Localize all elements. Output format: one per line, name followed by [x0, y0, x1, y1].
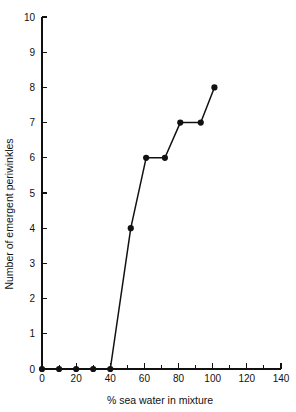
- x-tick-label: 100: [204, 373, 221, 384]
- data-point: [128, 225, 134, 231]
- x-tick-label: 0: [39, 373, 45, 384]
- y-tick-label: 5: [29, 188, 35, 199]
- x-tick-label: 120: [239, 373, 256, 384]
- x-tick-label: 140: [273, 373, 290, 384]
- x-tick-label: 40: [105, 373, 117, 384]
- data-point: [177, 120, 183, 126]
- chart-background: [0, 0, 296, 412]
- y-axis-title: Number of emergent periwinkles: [3, 138, 15, 289]
- line-chart: 012345678910 020406080100120140 % sea wa…: [0, 0, 296, 412]
- chart-figure: 012345678910 020406080100120140 % sea wa…: [0, 0, 296, 412]
- y-tick-label: 10: [24, 12, 36, 23]
- y-tick-label: 0: [29, 364, 35, 375]
- y-tick-label: 2: [29, 293, 35, 304]
- x-tick-label: 20: [71, 373, 83, 384]
- data-point: [143, 155, 149, 161]
- data-point: [39, 366, 45, 372]
- data-point: [73, 366, 79, 372]
- data-point: [90, 366, 96, 372]
- y-tick-label: 7: [29, 117, 35, 128]
- data-point: [107, 366, 113, 372]
- y-tick-label: 9: [29, 47, 35, 58]
- data-point: [162, 155, 168, 161]
- x-tick-label: 80: [173, 373, 185, 384]
- data-point: [211, 84, 217, 90]
- y-tick-label: 3: [29, 258, 35, 269]
- y-tick-label: 8: [29, 82, 35, 93]
- x-axis-title: % sea water in mixture: [107, 394, 213, 406]
- data-point: [198, 120, 204, 126]
- y-tick-label: 1: [29, 328, 35, 339]
- y-tick-label: 6: [29, 152, 35, 163]
- y-tick-label: 4: [29, 223, 35, 234]
- x-tick-label: 60: [139, 373, 151, 384]
- data-point: [56, 366, 62, 372]
